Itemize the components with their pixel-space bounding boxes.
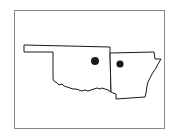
marker-dot-arkansas[interactable] (116, 60, 123, 67)
marker-dot-oklahoma[interactable] (91, 57, 99, 65)
map-canvas (0, 0, 178, 138)
region-arkansas[interactable] (110, 52, 161, 99)
region-oklahoma[interactable] (24, 45, 111, 92)
